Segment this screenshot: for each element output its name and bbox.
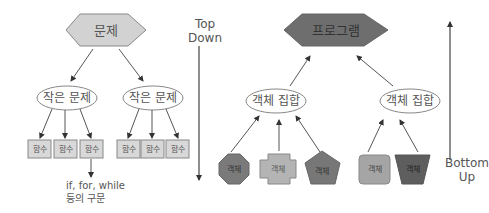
svg-text:함수: 함수: [33, 145, 47, 154]
arrow: [71, 49, 93, 81]
object-group-ellipse-2: 객체 집합: [380, 89, 440, 113]
object-rounded-square: 객체: [359, 155, 390, 184]
top-down-section: 문제 작은 문제 작은 문제 함수 함수: [28, 14, 222, 204]
function-box: 함수: [80, 140, 103, 158]
arrow: [40, 109, 52, 138]
svg-text:함수: 함수: [146, 145, 160, 154]
function-box: 함수: [54, 140, 77, 158]
svg-text:함수: 함수: [122, 145, 136, 154]
function-box: 함수: [166, 140, 189, 158]
subproblem-ellipse-1: 작은 문제: [37, 86, 97, 110]
control-structures-note: 등의 구문: [66, 193, 105, 204]
arrow: [119, 49, 143, 81]
program-hexagon: 프로그램: [284, 14, 388, 46]
svg-text:객체: 객체: [271, 164, 285, 174]
arrow: [290, 56, 310, 86]
svg-text:객체: 객체: [315, 166, 329, 176]
subproblem-label: 작은 문제: [43, 91, 91, 105]
arrow: [128, 109, 139, 138]
object-cross: 객체: [260, 154, 296, 184]
problem-label: 문제: [94, 23, 118, 38]
arrow: [166, 109, 178, 138]
function-box: 함수: [117, 140, 140, 158]
object-trapezoid: 객체: [395, 155, 430, 184]
problem-hexagon: 문제: [66, 14, 146, 46]
function-box: 함수: [28, 140, 51, 158]
subproblem-label: 작은 문제: [129, 91, 177, 105]
bottom-up-label: Up: [459, 170, 475, 184]
bottom-up-section: 프로그램 객체 집합 객체 집합 객체 객체: [219, 14, 489, 184]
top-down-label: Down: [188, 31, 222, 45]
svg-text:함수: 함수: [85, 145, 99, 154]
object-group-label: 객체 집합: [252, 94, 300, 108]
svg-text:객체: 객체: [368, 164, 382, 174]
arrow: [400, 120, 418, 152]
program-label: 프로그램: [312, 23, 360, 38]
arrow: [80, 109, 91, 138]
object-octagon: 객체: [219, 154, 249, 184]
subproblem-ellipse-2: 작은 문제: [123, 86, 183, 110]
svg-text:객체: 객체: [406, 164, 420, 174]
arrow: [231, 116, 259, 152]
top-down-label: Top: [194, 17, 215, 31]
function-box: 함수: [141, 140, 164, 158]
arrow: [368, 120, 383, 152]
arrow: [357, 56, 393, 86]
object-group-label: 객체 집합: [386, 94, 434, 108]
svg-text:함수: 함수: [171, 145, 185, 154]
svg-text:함수: 함수: [59, 145, 73, 154]
object-pentagon: 객체: [305, 151, 340, 184]
control-structures-note: if, for, while: [66, 180, 125, 191]
bottom-up-label: Bottom: [445, 156, 489, 170]
arrow: [296, 116, 320, 152]
svg-text:객체: 객체: [227, 164, 241, 174]
object-group-ellipse-1: 객체 집합: [246, 89, 306, 113]
diagram-canvas: 문제 작은 문제 작은 문제 함수 함수: [0, 0, 489, 213]
